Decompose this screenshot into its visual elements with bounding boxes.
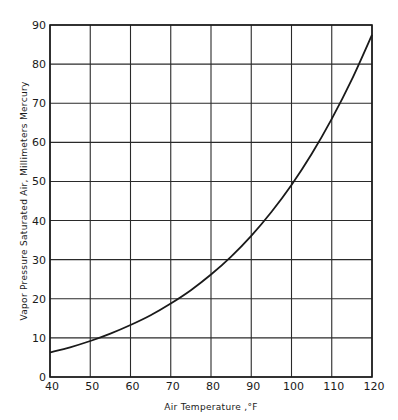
x-tick-label: 70 — [166, 380, 180, 393]
x-tick-label: 80 — [206, 380, 220, 393]
y-tick-label: 10 — [32, 332, 46, 345]
x-tick-label: 50 — [85, 380, 99, 393]
y-tick-label: 80 — [32, 58, 46, 71]
x-axis-label: Air Temperature ,°F — [164, 402, 257, 412]
y-tick-label: 40 — [32, 215, 46, 228]
y-tick-label: 70 — [32, 97, 46, 110]
x-tick-label: 110 — [323, 380, 344, 393]
vapor-pressure-chart: 0102030405060708090 40506070809010011012… — [0, 0, 398, 420]
x-tick-label: 100 — [283, 380, 304, 393]
x-tick-label: 60 — [126, 380, 140, 393]
y-tick-label: 50 — [32, 175, 46, 188]
y-tick-label: 30 — [32, 254, 46, 267]
y-axis-label: Vapor Pressure Saturated Air, Millimeter… — [19, 81, 29, 320]
x-tick-label: 90 — [246, 380, 260, 393]
y-axis-ticks: 0102030405060708090 — [32, 19, 46, 384]
y-tick-label: 20 — [32, 293, 46, 306]
x-tick-label: 120 — [364, 380, 385, 393]
grid-lines — [50, 25, 372, 377]
x-axis-ticks: 405060708090100110120 — [45, 380, 385, 393]
y-tick-label: 90 — [32, 19, 46, 32]
y-tick-label: 60 — [32, 136, 46, 149]
x-tick-label: 40 — [45, 380, 59, 393]
